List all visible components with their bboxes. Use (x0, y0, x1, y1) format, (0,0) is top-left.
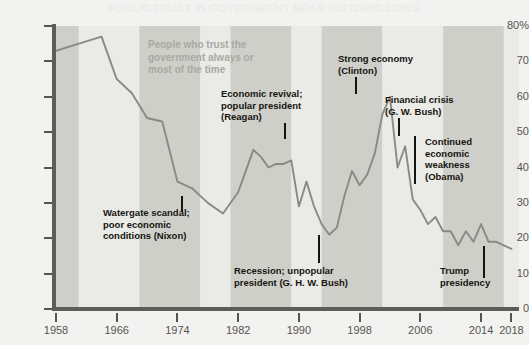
x-tick-label: 2014 (469, 324, 493, 336)
annotation-leader-ghw-bush (318, 235, 320, 263)
x-tick-mark (55, 313, 57, 322)
y-tick-label: 50 (483, 125, 529, 137)
x-tick-label: 1998 (347, 324, 371, 336)
annotation-leader-clinton (355, 77, 357, 94)
chart-root: PUBLIC TRUST IN GOVERNMENT NEAR HISTORIC… (0, 0, 529, 345)
annotation-gw-bush: Financial crisis (G. W. Bush) (385, 94, 454, 117)
x-tick-label: 1974 (165, 324, 189, 336)
y-tick-label: 30 (483, 196, 529, 208)
x-tick-mark (359, 313, 361, 322)
y-tick-mark (44, 96, 52, 98)
x-tick-mark (510, 313, 512, 322)
y-tick-mark (44, 308, 52, 310)
x-tick-mark (176, 313, 178, 322)
y-tick-mark (44, 60, 52, 62)
y-tick-label: 70 (483, 54, 529, 66)
y-tick-label: 0 (483, 302, 529, 314)
y-tick-mark (44, 237, 52, 239)
x-tick-mark (298, 313, 300, 322)
x-tick-mark (480, 313, 482, 322)
x-axis (52, 307, 519, 311)
y-tick-label: 40 (483, 161, 529, 173)
annotation-clinton: Strong economy (Clinton) (338, 53, 413, 76)
annotation-reagan: Economic revival; popular president (Rea… (221, 88, 302, 123)
x-tick-label: 2006 (408, 324, 432, 336)
chart-faint-title: PUBLIC TRUST IN GOVERNMENT NEAR HISTORIC… (108, 2, 428, 16)
y-tick-mark (44, 167, 52, 169)
y-tick-label: 60 (483, 90, 529, 102)
y-tick-mark (44, 131, 52, 133)
x-tick-mark (116, 313, 118, 322)
annotation-leader-gw-bush (398, 118, 400, 136)
annotation-ghw-bush: Recession; unpopular president (G. H. W.… (234, 265, 348, 288)
x-tick-mark (419, 313, 421, 322)
y-axis (52, 24, 56, 311)
x-tick-label: 2018 (499, 324, 523, 336)
series-label: People who trust the government always o… (148, 39, 268, 77)
x-tick-label: 1990 (287, 324, 311, 336)
x-tick-label: 1958 (44, 324, 68, 336)
annotation-obama: Continued economic weakness (Obama) (425, 136, 472, 182)
y-tick-mark (44, 273, 52, 275)
y-tick-label: 20 (483, 231, 529, 243)
y-tick-mark (44, 25, 52, 27)
annotation-leader-trump (483, 246, 485, 278)
annotation-leader-reagan (284, 123, 286, 139)
y-tick-mark (44, 202, 52, 204)
x-tick-mark (237, 313, 239, 322)
annotation-nixon: Watergate scandal; poor economic conditi… (103, 207, 190, 242)
presidency-band (79, 26, 140, 309)
y-tick-label: 80% (483, 19, 529, 31)
annotation-leader-obama (414, 136, 416, 184)
x-tick-label: 1966 (104, 324, 128, 336)
annotation-leader-nixon (181, 196, 183, 212)
x-tick-label: 1982 (226, 324, 250, 336)
presidency-band (56, 26, 79, 309)
